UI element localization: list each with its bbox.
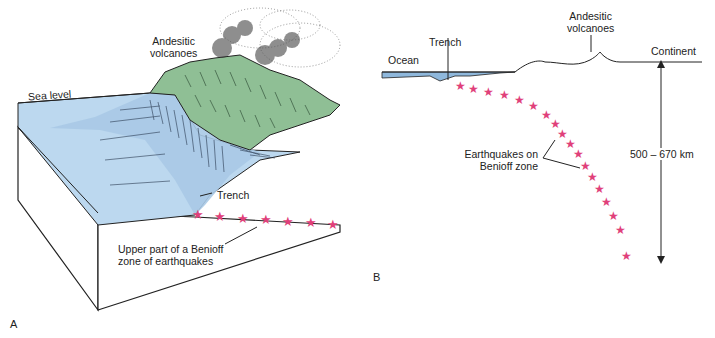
label-benioff-a: Upper part of a Benioff zone of earthqua… bbox=[118, 243, 223, 267]
label-trench-b: Trench bbox=[429, 36, 461, 48]
svg-text:★: ★ bbox=[237, 211, 249, 226]
panel-a-block-diagram: ★★★ ★★★★ ★★★★ ★★★★ ★★★★ ★★★★ ★★ bbox=[0, 0, 715, 338]
svg-text:★: ★ bbox=[305, 215, 317, 230]
label-line: Earthquakes on bbox=[458, 148, 538, 160]
label-line: Upper part of a Benioff bbox=[118, 243, 223, 255]
svg-text:★: ★ bbox=[468, 82, 479, 96]
svg-text:★: ★ bbox=[483, 85, 494, 99]
label-andesitic-volcanoes-a: Andesitic volcanoes bbox=[150, 35, 197, 59]
label-continent: Continent bbox=[651, 45, 696, 57]
label-line: zone of earthquakes bbox=[118, 255, 223, 267]
svg-text:★: ★ bbox=[621, 249, 632, 263]
svg-text:★: ★ bbox=[615, 223, 626, 237]
svg-text:★: ★ bbox=[282, 214, 294, 229]
label-andesitic-volcanoes-b: Andesitic volcanoes bbox=[567, 10, 614, 34]
label-ocean: Ocean bbox=[388, 54, 419, 66]
label-line: volcanoes bbox=[150, 47, 197, 59]
svg-text:★: ★ bbox=[601, 195, 612, 209]
svg-text:★: ★ bbox=[499, 88, 510, 102]
svg-text:★: ★ bbox=[594, 182, 605, 196]
label-earthquakes-benioff: Earthquakes on Benioff zone bbox=[458, 148, 538, 172]
svg-text:★: ★ bbox=[528, 99, 539, 113]
svg-text:★: ★ bbox=[192, 207, 204, 222]
label-line: Andesitic bbox=[567, 10, 614, 22]
label-line: Benioff zone bbox=[458, 160, 538, 172]
label-line: volcanoes bbox=[567, 22, 614, 34]
svg-text:★: ★ bbox=[327, 217, 339, 232]
svg-text:★: ★ bbox=[514, 93, 525, 107]
label-depth: 500 – 670 km bbox=[628, 148, 696, 160]
panel-a-letter: A bbox=[10, 318, 17, 330]
svg-text:★: ★ bbox=[260, 212, 272, 227]
label-line: Andesitic bbox=[150, 35, 197, 47]
svg-text:★: ★ bbox=[455, 79, 466, 93]
panel-b-letter: B bbox=[373, 271, 380, 283]
svg-text:★: ★ bbox=[214, 209, 226, 224]
label-trench-a: Trench bbox=[217, 189, 249, 201]
svg-text:★: ★ bbox=[608, 209, 619, 223]
